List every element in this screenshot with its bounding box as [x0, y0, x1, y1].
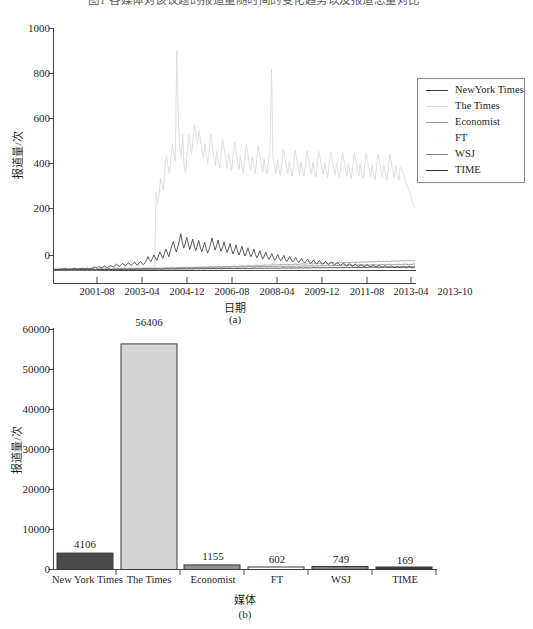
bar-the-times[interactable] — [121, 344, 177, 570]
bar-value-wsj: 749 — [310, 553, 372, 565]
bar-value-economist: 1155 — [182, 550, 244, 562]
legend-swatch-time — [426, 170, 448, 171]
bar-category-new-york-times: New York Times — [52, 574, 118, 585]
legend-label-ft: FT — [455, 133, 467, 144]
legend-item-time[interactable]: TIME — [418, 162, 524, 178]
bar-time[interactable] — [376, 567, 432, 570]
bar-value-new-york-times: 4106 — [54, 538, 116, 550]
bar-value-time: 169 — [374, 554, 436, 566]
bar-category-wsj: WSJ — [308, 574, 374, 585]
legend-label-newyork-times: NewYork Times — [455, 85, 524, 96]
legend-swatch-the-times — [426, 106, 448, 107]
figure-root: 图1 各媒体对该议题的报道量随时间的变化趋势以及报道总量对比 报道量/次 100… — [0, 0, 533, 629]
bar-value-the-times: 56406 — [118, 316, 180, 328]
figure-caption-sliver: 图1 各媒体对该议题的报道量随时间的变化趋势以及报道总量对比 — [0, 0, 533, 9]
panel-b-xlabel: 媒体 — [215, 591, 275, 607]
legend-item-newyork-times[interactable]: NewYork Times — [418, 82, 524, 98]
legend-swatch-economist — [426, 122, 448, 123]
legend-label-economist: Economist — [455, 117, 500, 128]
panel-a: 报道量/次 1000 800 600 400 200 0 — [0, 14, 533, 310]
bar-ft[interactable] — [248, 567, 304, 570]
panel-b-sublabel: (b) — [215, 608, 275, 620]
panel-b-bars-group — [57, 344, 432, 570]
legend-label-the-times: The Times — [455, 101, 500, 112]
legend-item-the-times[interactable]: The Times — [418, 98, 524, 114]
bar-category-time: TIME — [372, 574, 438, 585]
legend-label-time: TIME — [455, 165, 481, 176]
panel-a-series-group — [54, 51, 415, 270]
legend-item-economist[interactable]: Economist — [418, 114, 524, 130]
legend-swatch-newyork-times — [426, 90, 448, 91]
bar-wsj[interactable] — [312, 567, 368, 570]
panel-a-legend: NewYork Times The Times Economist FT WSJ… — [417, 78, 525, 183]
series-line-newyork-times — [54, 234, 415, 270]
bar-category-the-times: The Times — [116, 574, 182, 585]
legend-swatch-wsj — [426, 154, 448, 155]
legend-swatch-ft — [426, 138, 448, 139]
panel-b: 报道量/次 60000 50000 40000 30000 20000 1000… — [0, 320, 533, 629]
bar-economist[interactable] — [184, 565, 240, 570]
figure-caption-text: 图1 各媒体对该议题的报道量随时间的变化趋势以及报道总量对比 — [88, 0, 420, 7]
bar-category-ft: FT — [244, 574, 310, 585]
bar-new-york-times[interactable] — [57, 553, 113, 569]
bar-value-ft: 602 — [246, 553, 308, 565]
legend-item-ft[interactable]: FT — [418, 130, 524, 146]
panel-a-xtick-8: 2013-10 — [421, 286, 489, 297]
legend-item-wsj[interactable]: WSJ — [418, 146, 524, 162]
series-line-the-times — [54, 51, 415, 269]
legend-label-wsj: WSJ — [455, 149, 475, 160]
bar-category-economist: Economist — [180, 574, 246, 585]
